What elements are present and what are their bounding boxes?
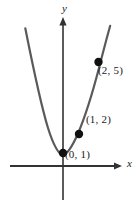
point-label-2-5: (2, 5): [98, 65, 123, 76]
point-label-0-1: (0, 1): [65, 149, 90, 160]
y-axis: [59, 17, 66, 200]
point-label-1-2: (1, 2): [86, 114, 111, 125]
data-points: [59, 58, 103, 157]
parabola-figure: y x (0, 1) (1, 2) (2, 5): [0, 0, 138, 206]
y-axis-label: y: [62, 3, 67, 14]
data-point-1-2: [75, 130, 83, 138]
x-axis-label: x: [127, 158, 132, 169]
parabola-curve: [25, 26, 110, 156]
x-axis: [10, 162, 122, 169]
plot-canvas: [0, 0, 138, 206]
